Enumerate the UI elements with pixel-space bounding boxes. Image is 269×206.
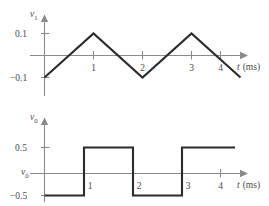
x-ticklabel-4-bottom: 4 bbox=[218, 181, 223, 191]
origin-label-sub: 0 bbox=[25, 172, 29, 179]
y-axis-label-top-sub: 1 bbox=[34, 14, 37, 21]
y-axis-label-bottom: v0 bbox=[30, 112, 38, 124]
x-axis-label-bottom: t(ms) bbox=[237, 180, 260, 191]
x-ticklabel-4-top: 4 bbox=[218, 63, 223, 73]
x-axis-arrow-top bbox=[240, 52, 248, 59]
y-axis-arrow-bottom bbox=[41, 118, 48, 126]
y-ticklabel-0.1-top: 0.1 bbox=[15, 29, 27, 39]
y-axis-arrow-top bbox=[41, 15, 48, 23]
x-ticklabel-2-top: 2 bbox=[140, 63, 145, 73]
y-ticklabel-neg0.5-bottom: −0.5 bbox=[10, 191, 27, 201]
x-axis-label-top-base: t bbox=[237, 62, 240, 72]
x-ticklabel-3-top: 3 bbox=[189, 63, 194, 73]
waveform-figure: v1 0.1 −0.1 1 2 3 4 t(ms) bbox=[0, 0, 269, 206]
chart-input-waveform: v1 0.1 −0.1 1 2 3 4 t(ms) bbox=[0, 0, 269, 103]
y-ticklabel-neg0.1-top: −0.1 bbox=[10, 73, 27, 83]
x-axis-label-bottom-unit: (ms) bbox=[243, 180, 260, 191]
x-ticklabel-2-bottom: 2 bbox=[137, 181, 142, 191]
y-axis-label-bottom-sub: 0 bbox=[34, 117, 38, 124]
x-axis-label-top: t(ms) bbox=[237, 62, 260, 73]
chart-output-waveform: v0 v0 0.5 −0.5 1 2 3 4 t(ms) bbox=[0, 103, 269, 206]
x-axis-label-top-unit: (ms) bbox=[243, 62, 260, 73]
x-ticklabel-3-bottom: 3 bbox=[186, 181, 191, 191]
x-ticklabel-1-bottom: 1 bbox=[88, 181, 93, 191]
x-ticklabel-1-top: 1 bbox=[91, 63, 96, 73]
origin-label-bottom: v0 bbox=[21, 167, 29, 179]
x-axis-label-bottom-base: t bbox=[237, 180, 240, 190]
x-axis-arrow-bottom bbox=[240, 170, 248, 177]
y-axis-label-top: v1 bbox=[30, 9, 38, 21]
y-ticklabel-0.5-bottom: 0.5 bbox=[15, 143, 27, 153]
